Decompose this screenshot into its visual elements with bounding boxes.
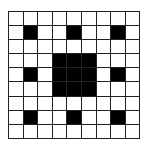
carpet-grid (8, 11, 140, 139)
filled-cell (82, 54, 97, 68)
empty-cell (9, 125, 24, 139)
empty-cell (38, 82, 53, 96)
empty-cell (97, 125, 112, 139)
empty-cell (38, 40, 53, 54)
empty-cell (9, 40, 24, 54)
empty-cell (97, 40, 112, 54)
empty-cell (53, 97, 68, 111)
empty-cell (67, 125, 82, 139)
empty-cell (24, 54, 39, 68)
empty-cell (97, 111, 112, 125)
empty-cell (38, 26, 53, 40)
filled-cell (53, 54, 68, 68)
empty-cell (53, 111, 68, 125)
empty-cell (24, 40, 39, 54)
empty-cell (97, 26, 112, 40)
empty-cell (53, 26, 68, 40)
empty-cell (111, 40, 126, 54)
empty-cell (82, 111, 97, 125)
empty-cell (126, 111, 141, 125)
empty-cell (53, 40, 68, 54)
empty-cell (9, 68, 24, 82)
empty-cell (82, 12, 97, 26)
empty-cell (24, 12, 39, 26)
empty-cell (38, 54, 53, 68)
empty-cell (9, 111, 24, 125)
filled-cell (53, 68, 68, 82)
empty-cell (126, 68, 141, 82)
empty-cell (38, 125, 53, 139)
empty-cell (38, 111, 53, 125)
empty-cell (67, 40, 82, 54)
filled-cell (111, 26, 126, 40)
empty-cell (97, 68, 112, 82)
empty-cell (24, 82, 39, 96)
empty-cell (9, 26, 24, 40)
filled-cell (111, 68, 126, 82)
empty-cell (9, 82, 24, 96)
filled-cell (67, 68, 82, 82)
filled-cell (67, 26, 82, 40)
empty-cell (126, 54, 141, 68)
filled-cell (24, 111, 39, 125)
empty-cell (111, 97, 126, 111)
empty-cell (82, 40, 97, 54)
empty-cell (97, 54, 112, 68)
empty-cell (82, 125, 97, 139)
filled-cell (67, 54, 82, 68)
empty-cell (82, 26, 97, 40)
empty-cell (126, 82, 141, 96)
filled-cell (24, 26, 39, 40)
empty-cell (24, 97, 39, 111)
empty-cell (97, 12, 112, 26)
empty-cell (126, 125, 141, 139)
filled-cell (24, 68, 39, 82)
empty-cell (9, 97, 24, 111)
empty-cell (53, 12, 68, 26)
empty-cell (38, 97, 53, 111)
empty-cell (9, 12, 24, 26)
empty-cell (111, 54, 126, 68)
empty-cell (67, 97, 82, 111)
empty-cell (97, 97, 112, 111)
empty-cell (38, 68, 53, 82)
empty-cell (126, 97, 141, 111)
empty-cell (53, 125, 68, 139)
filled-cell (82, 82, 97, 96)
filled-cell (82, 68, 97, 82)
filled-cell (111, 111, 126, 125)
empty-cell (38, 12, 53, 26)
empty-cell (24, 125, 39, 139)
empty-cell (67, 12, 82, 26)
filled-cell (67, 82, 82, 96)
empty-cell (97, 82, 112, 96)
empty-cell (126, 40, 141, 54)
empty-cell (111, 12, 126, 26)
filled-cell (67, 111, 82, 125)
filled-cell (53, 82, 68, 96)
empty-cell (82, 97, 97, 111)
empty-cell (111, 82, 126, 96)
empty-cell (111, 125, 126, 139)
empty-cell (9, 54, 24, 68)
empty-cell (126, 12, 141, 26)
empty-cell (126, 26, 141, 40)
